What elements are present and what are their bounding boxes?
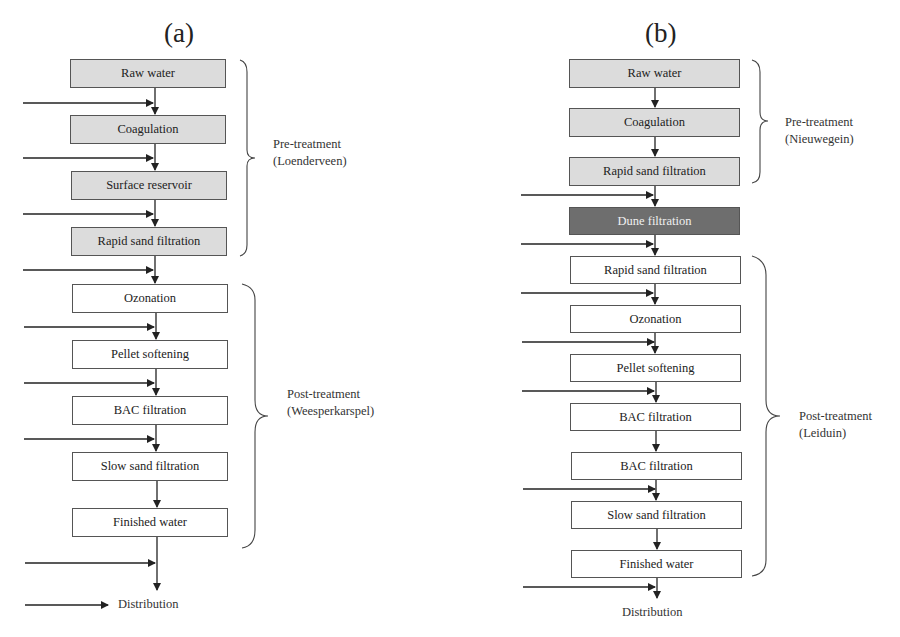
panel-b-step-slow-sand-filtration: Slow sand filtration (571, 501, 742, 529)
panel-b-step-ozonation: Ozonation (570, 305, 741, 333)
panel-a-step-bac-filtration: BAC filtration (72, 396, 228, 425)
panel-b-step-bac-filtration-2: BAC filtration (571, 452, 742, 480)
panel-a-step-raw-water: Raw water (70, 59, 226, 88)
step-label: Raw water (121, 66, 175, 81)
group-site: (Loenderveen) (273, 153, 347, 170)
panel-b-step-raw-water: Raw water (569, 59, 740, 88)
step-label: Pellet softening (616, 361, 694, 376)
panel-a-step-finished-water: Finished water (72, 508, 228, 537)
panel-a-step-surface-reservoir: Surface reservoir (71, 171, 227, 200)
panel-a-step-pellet-softening: Pellet softening (72, 340, 228, 369)
panel-a-step-slow-sand-filtration: Slow sand filtration (72, 452, 228, 481)
step-label: Rapid sand filtration (604, 263, 707, 278)
group-title: Pre-treatment (785, 114, 854, 131)
panel-a-step-rapid-sand-filtration: Rapid sand filtration (71, 227, 227, 256)
step-label: Finished water (620, 557, 694, 572)
step-label: Surface reservoir (106, 178, 192, 193)
panel-a-distribution-label: Distribution (118, 597, 178, 612)
group-site: (Weesperkarspel) (287, 403, 374, 420)
panel-b-posttreatment-label: Post-treatment (Leiduin) (799, 408, 872, 442)
step-label: BAC filtration (619, 410, 692, 425)
group-site: (Nieuwegein) (785, 131, 854, 148)
panel-a-step-coagulation: Coagulation (70, 115, 226, 144)
step-label: Coagulation (117, 122, 178, 137)
step-label: Finished water (113, 515, 187, 530)
panel-b-step-finished-water: Finished water (571, 550, 742, 578)
panel-b-step-rapid-sand-filtration-post: Rapid sand filtration (570, 256, 741, 284)
step-label: Rapid sand filtration (98, 234, 201, 249)
group-title: Pre-treatment (273, 136, 347, 153)
group-site: (Leiduin) (799, 425, 872, 442)
step-label: Rapid sand filtration (603, 164, 706, 179)
flow-connectors (0, 0, 900, 637)
panel-a-pretreatment-label: Pre-treatment (Loenderveen) (273, 136, 347, 170)
step-label: Dune filtration (618, 214, 692, 229)
panel-b-step-coagulation: Coagulation (569, 108, 740, 137)
step-label: Ozonation (124, 291, 176, 306)
step-label: BAC filtration (114, 403, 187, 418)
step-label: BAC filtration (620, 459, 693, 474)
step-label: Ozonation (629, 312, 681, 327)
panel-b-step-bac-filtration-1: BAC filtration (570, 403, 741, 431)
panel-b-distribution-label: Distribution (622, 605, 682, 620)
group-title: Post-treatment (287, 386, 374, 403)
panel-b-step-pellet-softening: Pellet softening (570, 354, 741, 382)
panel-b-pretreatment-label: Pre-treatment (Nieuwegein) (785, 114, 854, 148)
step-label: Slow sand filtration (607, 508, 706, 523)
panel-b-step-rapid-sand-filtration-pre: Rapid sand filtration (569, 157, 740, 186)
panel-b-step-dune-filtration: Dune filtration (569, 207, 740, 235)
step-label: Pellet softening (111, 347, 189, 362)
panel-a-step-ozonation: Ozonation (72, 284, 228, 313)
step-label: Coagulation (624, 115, 685, 130)
step-label: Slow sand filtration (101, 459, 200, 474)
panel-a-posttreatment-label: Post-treatment (Weesperkarspel) (287, 386, 374, 420)
group-title: Post-treatment (799, 408, 872, 425)
step-label: Raw water (628, 66, 682, 81)
